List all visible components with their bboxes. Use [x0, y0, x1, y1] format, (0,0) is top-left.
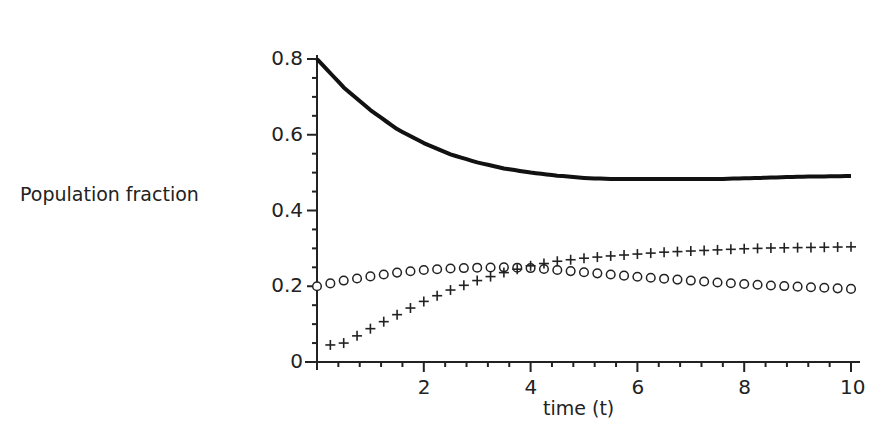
- circle-marker: [580, 268, 589, 277]
- circle-marker: [673, 275, 682, 284]
- x-tick-label: 6: [631, 375, 644, 399]
- circle-marker: [646, 273, 655, 282]
- circle-marker: [326, 279, 335, 288]
- circle-marker: [767, 281, 776, 290]
- y-tick-label: 0.6: [271, 122, 303, 146]
- circle-marker: [366, 272, 375, 281]
- circle-marker: [353, 274, 362, 283]
- circle-marker: [460, 264, 469, 273]
- circle-marker: [433, 265, 442, 274]
- circle-marker: [660, 274, 669, 283]
- x-axis-label: time (t): [543, 397, 614, 419]
- circle-marker: [700, 277, 709, 286]
- circle-marker: [620, 271, 629, 280]
- circle-marker: [486, 263, 495, 272]
- x-tick-label: 10: [840, 375, 865, 399]
- x-tick-label: 4: [525, 375, 538, 399]
- y-axis-label: Population fraction: [20, 183, 199, 205]
- circle-marker: [313, 282, 322, 291]
- circle-marker: [553, 266, 562, 275]
- circle-marker: [393, 268, 402, 277]
- circle-marker: [406, 267, 415, 276]
- circle-marker: [727, 279, 736, 288]
- circle-marker: [566, 267, 575, 276]
- circle-marker: [820, 283, 829, 292]
- circle-marker: [379, 270, 388, 279]
- circle-marker: [593, 269, 602, 278]
- series-solid-curve: [317, 59, 851, 179]
- circle-marker: [753, 280, 762, 289]
- circle-marker: [687, 276, 696, 285]
- circle-marker: [713, 278, 722, 287]
- solid-curve-line: [317, 59, 851, 179]
- circle-marker: [847, 285, 856, 294]
- circle-marker: [807, 283, 816, 292]
- circle-marker: [633, 272, 642, 281]
- circle-marker: [339, 276, 348, 285]
- circle-marker: [780, 282, 789, 291]
- circle-marker: [740, 280, 749, 289]
- y-tick-label: 0.8: [271, 46, 303, 70]
- circle-marker: [606, 270, 615, 279]
- circle-marker: [833, 284, 842, 293]
- y-tick-label: 0.2: [271, 273, 303, 297]
- series-circles: [313, 263, 856, 293]
- chart-canvas: [0, 0, 889, 440]
- y-tick-label: 0: [290, 349, 303, 373]
- x-tick-label: 8: [738, 375, 751, 399]
- circle-marker: [793, 282, 802, 291]
- axes: [305, 55, 860, 372]
- circle-marker: [446, 264, 455, 273]
- series-crosses: [325, 242, 856, 350]
- y-tick-label: 0.4: [271, 198, 303, 222]
- x-tick-label: 2: [418, 375, 431, 399]
- circle-marker: [420, 266, 429, 275]
- circle-marker: [473, 263, 482, 272]
